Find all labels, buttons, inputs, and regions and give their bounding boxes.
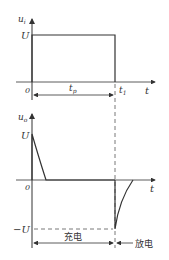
rc-differentiator-waveform-diagram: ui U 0 tp t1 t uo U 0 t −U 充电 放电 [0,0,169,260]
tp-label: tp [69,83,77,95]
bottom-x-axis-label: t [150,183,155,194]
bottom-pos-level-label: U [21,130,30,141]
top-x-axis-label: t [145,85,150,96]
discharge-label: 放电 [135,238,153,249]
positive-spike-decay [32,134,115,180]
input-pulse-plot: ui U 0 tp t1 t [16,14,155,100]
top-origin-label: 0 [25,86,30,95]
bottom-y-axis-label: uo [18,112,28,123]
bottom-origin-label: 0 [25,183,30,192]
input-pulse-waveform [32,35,115,82]
charge-label: 充电 [64,231,82,242]
output-waveform-plot: uo U 0 t −U 充电 放电 [13,112,155,249]
top-y-axis-label: ui [18,14,26,25]
t1-label: t1 [119,85,126,96]
bottom-neg-level-label: −U [13,224,30,235]
negative-spike-decay [115,180,133,229]
top-level-label: U [21,30,30,41]
